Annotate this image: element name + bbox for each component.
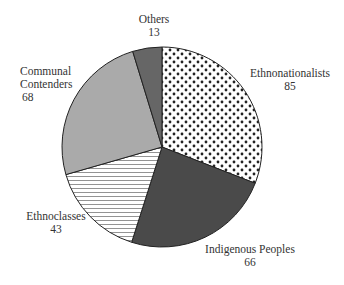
- label-communal-contenders: Communal Contenders 68: [20, 65, 80, 104]
- label-ethnoclasses: Ethnoclasses 43: [20, 210, 92, 236]
- label-indigenous-peoples: Indigenous Peoples 66: [195, 243, 305, 269]
- label-ethnonationalists: Ethnonationalists 85: [240, 67, 340, 93]
- label-others: Others 13: [128, 13, 180, 39]
